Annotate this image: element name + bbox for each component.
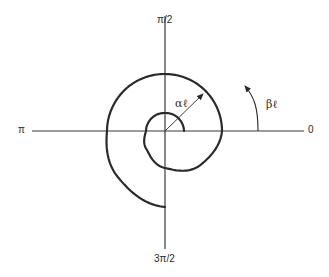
label-pi-half: π/2 xyxy=(157,14,172,26)
label-three-pi-half: 3π/2 xyxy=(154,253,175,265)
spiral-curve xyxy=(107,74,222,207)
label-pi: π xyxy=(18,124,25,136)
label-zero: 0 xyxy=(308,124,314,136)
beta-rotation-arrow xyxy=(245,86,258,131)
label-beta-l: βℓ xyxy=(266,99,278,111)
spiral-diagram xyxy=(0,0,329,277)
label-alpha-l: αℓ xyxy=(175,98,188,110)
